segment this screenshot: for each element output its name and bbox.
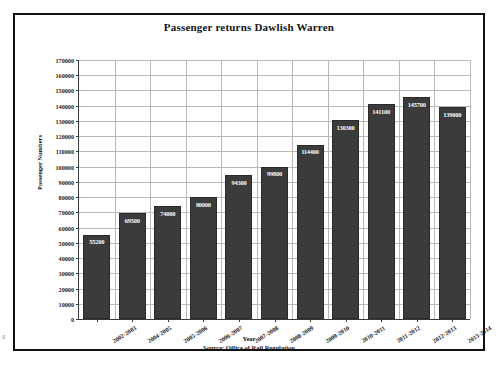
y-tick-label: 50000: [59, 239, 74, 246]
bar-group[interactable]: 74000: [150, 60, 186, 319]
bar-value-label: 55200: [84, 238, 109, 245]
y-tick-mark: [76, 319, 79, 320]
y-tick-label: 30000: [59, 270, 74, 277]
bar[interactable]: 130300: [332, 120, 359, 319]
x-axis-title: Year: [15, 335, 483, 342]
bar[interactable]: 141100: [368, 104, 395, 319]
bar-value-label: 74000: [155, 210, 180, 217]
bar-value-label: 80000: [191, 201, 216, 208]
y-tick-label: 80000: [59, 194, 74, 201]
x-tick-mark: [97, 319, 98, 322]
bar-group[interactable]: 130300: [328, 60, 364, 319]
y-tick-label: 140000: [55, 102, 74, 109]
y-tick-label: 60000: [59, 224, 74, 231]
x-tick-mark: [203, 319, 204, 322]
y-tick-label: 0: [71, 316, 74, 323]
y-tick-label: 160000: [55, 72, 74, 79]
y-tick-label: 110000: [56, 148, 74, 155]
scan-edge-artifact: s: [2, 332, 5, 341]
x-tick-mark: [132, 319, 133, 322]
plot-area: 0100002000030000400005000060000700008000…: [78, 60, 470, 320]
y-tick-label: 100000: [55, 163, 74, 170]
bar-group[interactable]: 99800: [257, 60, 293, 319]
y-tick-label: 120000: [55, 133, 74, 140]
x-tick-mark: [275, 319, 276, 322]
y-tick-label: 20000: [59, 285, 74, 292]
chart-title: Passenger returns Dawlish Warren: [15, 21, 483, 33]
y-tick-label: 70000: [59, 209, 74, 216]
bar-group[interactable]: 139000: [434, 60, 470, 319]
bar-group[interactable]: 114400: [292, 60, 328, 319]
bar-group[interactable]: 94300: [221, 60, 257, 319]
bar-value-label: 94300: [226, 179, 251, 186]
bar[interactable]: 55200: [83, 235, 110, 319]
x-tick-mark: [346, 319, 347, 322]
bar-group[interactable]: 141100: [363, 60, 399, 319]
bar-value-label: 69500: [120, 217, 145, 224]
bar[interactable]: 69500: [119, 213, 146, 319]
y-tick-label: 150000: [55, 87, 74, 94]
bar-value-label: 130300: [333, 124, 358, 131]
x-tick-mark: [452, 319, 453, 322]
bar-value-label: 139000: [440, 111, 465, 118]
bars-layer: 5520069500740008000094300998001144001303…: [79, 60, 470, 319]
x-tick-mark: [239, 319, 240, 322]
bar-group[interactable]: 69500: [115, 60, 151, 319]
bar[interactable]: 114400: [297, 145, 324, 319]
y-tick-label: 40000: [59, 255, 74, 262]
bar[interactable]: 145700: [403, 97, 430, 319]
x-tick-mark: [417, 319, 418, 322]
bar[interactable]: 80000: [190, 197, 217, 319]
x-tick-mark: [381, 319, 382, 322]
bar-group[interactable]: 145700: [399, 60, 435, 319]
y-tick-label: 170000: [55, 57, 74, 64]
bar[interactable]: 74000: [154, 206, 181, 319]
x-tick-mark: [168, 319, 169, 322]
bar[interactable]: 94300: [225, 175, 252, 319]
bar-value-label: 145700: [404, 101, 429, 108]
bar-value-label: 141100: [369, 108, 394, 115]
y-tick-label: 10000: [59, 300, 74, 307]
y-tick-label: 130000: [55, 117, 74, 124]
chart-frame: Passenger returns Dawlish Warren Passeng…: [13, 13, 485, 351]
bar[interactable]: 99800: [261, 167, 288, 319]
y-tick-label: 90000: [59, 178, 74, 185]
bar-value-label: 99800: [262, 170, 287, 177]
source-note: Source: Office of Rail Regulation: [15, 344, 483, 351]
y-axis-title: Passenger Numbers: [36, 135, 43, 190]
x-tick-mark: [310, 319, 311, 322]
bar-group[interactable]: 55200: [79, 60, 115, 319]
bar[interactable]: 139000: [439, 107, 466, 319]
bar-group[interactable]: 80000: [186, 60, 222, 319]
bar-value-label: 114400: [298, 148, 323, 155]
grid-vline: [470, 60, 471, 319]
